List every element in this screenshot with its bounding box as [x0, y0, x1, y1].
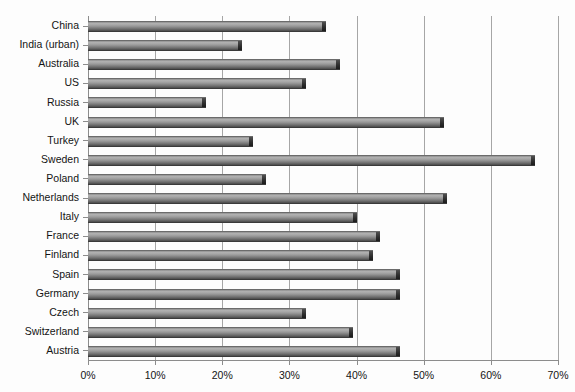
bar-end-cap	[443, 194, 447, 203]
y-tick-mark	[83, 83, 88, 84]
x-tick-label: 40%	[332, 369, 382, 381]
category-label: Austria	[0, 344, 79, 356]
category-label: Poland	[0, 172, 79, 184]
bar	[88, 40, 242, 51]
x-tick-mark	[424, 360, 425, 365]
gridline-70%	[558, 16, 559, 360]
x-tick-label: 30%	[264, 369, 314, 381]
category-label: Sweden	[0, 153, 79, 165]
category-label: Russia	[0, 96, 79, 108]
x-tick-mark	[155, 360, 156, 365]
y-tick-mark	[83, 236, 88, 237]
category-label: Czech	[0, 306, 79, 318]
bar-row	[88, 341, 558, 360]
category-label: Netherlands	[0, 191, 79, 203]
bar-row	[88, 284, 558, 303]
bar-end-cap	[238, 41, 242, 50]
x-tick-label: 10%	[130, 369, 180, 381]
y-tick-mark	[83, 293, 88, 294]
bar-row	[88, 16, 558, 35]
bar	[88, 212, 357, 223]
x-tick-mark	[289, 360, 290, 365]
y-tick-mark	[83, 45, 88, 46]
bar	[88, 117, 444, 128]
bar-end-cap	[262, 175, 266, 184]
bar-end-cap	[322, 22, 326, 31]
bar	[88, 231, 380, 242]
category-label: US	[0, 76, 79, 88]
bar	[88, 346, 400, 357]
category-label: Australia	[0, 57, 79, 69]
bar-end-cap	[302, 309, 306, 318]
bar-row	[88, 169, 558, 188]
bar	[88, 78, 306, 89]
plot-area	[88, 16, 558, 360]
bar-row	[88, 131, 558, 150]
bar	[88, 174, 266, 185]
bar-row	[88, 207, 558, 226]
bar-end-cap	[376, 232, 380, 241]
bar-row	[88, 226, 558, 245]
bar-end-cap	[336, 60, 340, 69]
bar-end-cap	[531, 156, 535, 165]
x-tick-mark	[222, 360, 223, 365]
bar-end-cap	[440, 118, 444, 127]
bar	[88, 155, 535, 166]
bar	[88, 21, 326, 32]
bar	[88, 289, 400, 300]
category-label: Switzerland	[0, 325, 79, 337]
y-tick-mark	[83, 331, 88, 332]
x-tick-label: 0%	[63, 369, 113, 381]
category-label: Italy	[0, 210, 79, 222]
x-tick-label: 50%	[399, 369, 449, 381]
category-label: Germany	[0, 287, 79, 299]
y-tick-mark	[83, 26, 88, 27]
bar-row	[88, 73, 558, 92]
bar-row	[88, 54, 558, 73]
category-label: India (urban)	[0, 38, 79, 50]
bar-end-cap	[396, 270, 400, 279]
scan-artifact	[0, 0, 575, 14]
category-label: France	[0, 229, 79, 241]
x-tick-mark	[491, 360, 492, 365]
y-tick-mark	[83, 64, 88, 65]
category-label: Spain	[0, 268, 79, 280]
bar-end-cap	[396, 290, 400, 299]
x-tick-label: 70%	[533, 369, 575, 381]
y-tick-mark	[83, 217, 88, 218]
bar-end-cap	[353, 213, 357, 222]
y-tick-mark	[83, 140, 88, 141]
x-axis-line	[88, 360, 559, 361]
y-tick-mark	[83, 350, 88, 351]
y-tick-mark	[83, 198, 88, 199]
x-tick-label: 60%	[466, 369, 516, 381]
bar-row	[88, 322, 558, 341]
bar	[88, 193, 447, 204]
x-tick-label: 20%	[197, 369, 247, 381]
bar	[88, 269, 400, 280]
bar	[88, 136, 253, 147]
bar	[88, 327, 353, 338]
bar-row	[88, 35, 558, 54]
bar-end-cap	[249, 137, 253, 146]
bar-row	[88, 245, 558, 264]
category-label: Turkey	[0, 134, 79, 146]
bar-row	[88, 264, 558, 283]
bar-row	[88, 188, 558, 207]
bar-row	[88, 150, 558, 169]
y-tick-mark	[83, 255, 88, 256]
bar-end-cap	[396, 347, 400, 356]
y-tick-mark	[83, 102, 88, 103]
bar-row	[88, 92, 558, 111]
y-tick-mark	[83, 121, 88, 122]
bar-row	[88, 303, 558, 322]
bar	[88, 308, 306, 319]
x-tick-mark	[558, 360, 559, 365]
x-tick-mark	[357, 360, 358, 365]
y-tick-mark	[83, 178, 88, 179]
bar	[88, 59, 340, 70]
y-tick-mark	[83, 312, 88, 313]
y-tick-mark	[83, 159, 88, 160]
bar-row	[88, 112, 558, 131]
x-tick-mark	[88, 360, 89, 365]
